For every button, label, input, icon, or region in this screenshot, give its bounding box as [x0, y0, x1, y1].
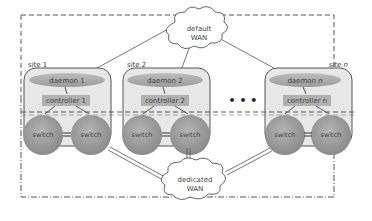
switch-1b-label: switch — [81, 131, 102, 139]
ellipsis: • • • — [229, 94, 258, 107]
daemon-n-label: daemon n — [287, 77, 322, 85]
switch-2b-label: switch — [180, 131, 201, 139]
default-wan-cloud: default WAN — [166, 7, 227, 49]
site-2: site 2 daemon 2 controller 2 switch swit… — [122, 61, 210, 155]
link-default-siten — [215, 36, 283, 73]
controller-2-label: controller 2 — [145, 97, 185, 105]
site-n: site n daemon n controller n switch swit… — [265, 61, 352, 155]
default-wan-line1: default — [187, 25, 212, 33]
site-2-label: site 2 — [127, 61, 146, 69]
daemon-2-label: daemon 2 — [147, 77, 182, 85]
default-wan-line2: WAN — [191, 34, 208, 42]
switch-1a-label: switch — [33, 131, 54, 139]
switch-na-label: switch — [275, 131, 296, 139]
site-1-label: site 1 — [28, 61, 47, 69]
daemon-1-label: daemon 1 — [49, 77, 84, 85]
controller-1-label: controller 1 — [46, 97, 86, 105]
diagram-canvas: site 1 daemon 1 controller 1 switch swit… — [0, 0, 372, 221]
site-n-label: site n — [329, 61, 348, 69]
controller-n-label: controller n — [287, 97, 327, 105]
site-1: site 1 daemon 1 controller 1 switch swit… — [23, 61, 111, 155]
dedicated-wan-line2: WAN — [187, 185, 204, 193]
switch-nb-label: switch — [321, 131, 342, 139]
dedicated-wan-line1: dedicated — [178, 176, 213, 184]
switch-2a-label: switch — [132, 131, 153, 139]
dedicated-wan-cloud: dedicated WAN — [161, 158, 225, 200]
